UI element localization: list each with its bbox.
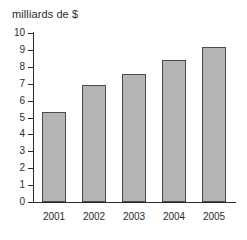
x-axis-label-2002: 2002	[74, 211, 114, 222]
x-axis-label-2005: 2005	[194, 211, 234, 222]
bar-2003	[122, 74, 146, 202]
x-axis-label-2001: 2001	[34, 211, 74, 222]
bar-2002	[82, 85, 106, 202]
x-axis-label-2004: 2004	[154, 211, 194, 222]
bar-2004	[162, 60, 186, 202]
x-axis-label-2003: 2003	[114, 211, 154, 222]
bar-2001	[42, 112, 66, 202]
bar-2005	[202, 47, 226, 202]
bar-chart: milliards de $ 012345678910 200120022003…	[0, 0, 247, 240]
bar-series	[0, 0, 247, 240]
